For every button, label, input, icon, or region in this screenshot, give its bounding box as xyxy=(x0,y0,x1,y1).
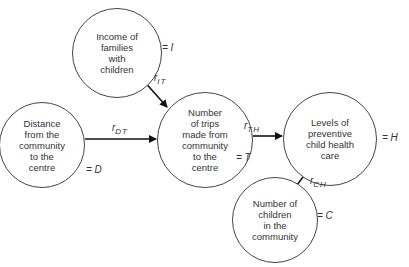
node-distance: Distance from the community to the centr… xyxy=(0,102,85,188)
symbol-distance: = D xyxy=(86,164,102,175)
node-children-label: Number of children in the community xyxy=(252,198,298,242)
edge-label-th: rTH xyxy=(244,120,260,134)
node-distance-label: Distance from the community to the centr… xyxy=(19,118,65,173)
node-children: Number of children in the community xyxy=(232,177,318,263)
symbol-levels: = H xyxy=(382,132,398,143)
symbol-children: = C xyxy=(317,210,333,221)
node-levels: Levels of preventive child health care xyxy=(283,92,377,186)
edge-label-ch: rCH xyxy=(310,175,327,189)
symbol-income: = I xyxy=(162,42,173,53)
node-trips-label: Number of trips made from community to t… xyxy=(182,107,228,173)
node-income-label: Income of families with children xyxy=(96,31,138,75)
node-trips: Number of trips made from community to t… xyxy=(157,92,253,188)
node-income: Income of families with children xyxy=(72,8,162,98)
edge-label-dt: rDT xyxy=(112,122,128,136)
edge-label-it: rIT xyxy=(154,72,166,86)
node-levels-label: Levels of preventive child health care xyxy=(306,117,354,161)
symbol-trips: = T xyxy=(236,152,251,163)
